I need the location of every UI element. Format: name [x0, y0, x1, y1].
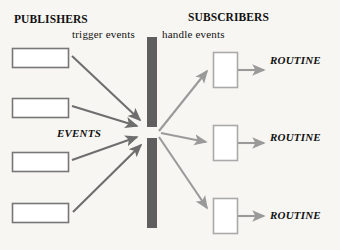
subscriber-box: [214, 126, 238, 161]
dispatch-bar-upper: [147, 37, 157, 127]
dispatch-bar-lower: [147, 138, 157, 228]
subscriber-box: [214, 199, 238, 234]
outbound-arrow: [161, 133, 206, 142]
routine-label: ROUTINE: [270, 210, 321, 221]
subscriber-box: [214, 53, 238, 88]
publisher-box: [13, 204, 69, 223]
outbound-arrow: [159, 71, 207, 131]
inbound-arrow: [72, 137, 137, 160]
publishers-heading: PUBLISHERS: [14, 14, 88, 26]
subscriber-box-group: [214, 53, 238, 234]
dispatch-bar: [147, 37, 157, 228]
routine-arrow-group: [238, 70, 264, 216]
event-dispatch-diagram: PUBLISHERS SUBSCRIBERS trigger events ha…: [0, 0, 340, 250]
publisher-box: [13, 153, 69, 172]
publisher-box: [13, 49, 69, 68]
handle-events-caption: handle events: [162, 29, 225, 40]
inbound-arrow: [72, 56, 140, 120]
routine-label: ROUTINE: [270, 55, 321, 66]
routine-label: ROUTINE: [270, 132, 321, 143]
subscribers-heading: SUBSCRIBERS: [188, 12, 269, 24]
outbound-arrow: [159, 137, 207, 208]
outbound-arrow-group: [159, 71, 207, 208]
trigger-events-caption: trigger events: [72, 29, 135, 40]
events-label: EVENTS: [57, 128, 101, 139]
publisher-box: [13, 99, 69, 118]
